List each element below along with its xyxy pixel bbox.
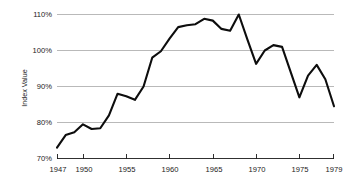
x-tick-label-1979: 1979	[326, 165, 343, 174]
gridlines	[57, 15, 334, 123]
x-tick-label-1960: 1960	[162, 165, 179, 174]
y-tick-label-110: 110%	[33, 10, 52, 19]
chart-canvas: 110% 100% 90% 80% 70% Index Value 1947 1…	[0, 0, 347, 194]
x-axis-tick-labels: 1947 1950 1955 1960 1965 1970 1975 1979	[50, 165, 343, 174]
y-axis-tick-labels: 110% 100% 90% 80% 70%	[33, 10, 53, 163]
line-chart: 110% 100% 90% 80% 70% Index Value 1947 1…	[0, 0, 347, 194]
x-tick-label-1975: 1975	[292, 165, 309, 174]
y-tick-label-80: 80%	[37, 118, 52, 127]
x-tick-label-1950: 1950	[76, 165, 93, 174]
x-tick-label-1955: 1955	[119, 165, 136, 174]
x-axis-tick-marks	[58, 154, 334, 159]
y-axis-title: Index Value	[20, 69, 29, 106]
y-tick-label-90: 90%	[37, 82, 52, 91]
x-tick-label-1970: 1970	[249, 165, 266, 174]
x-tick-label-1947: 1947	[50, 165, 67, 174]
y-tick-label-100: 100%	[33, 46, 53, 55]
data-series-line	[57, 15, 334, 148]
y-tick-label-70: 70%	[37, 154, 52, 163]
x-tick-label-1965: 1965	[206, 165, 223, 174]
